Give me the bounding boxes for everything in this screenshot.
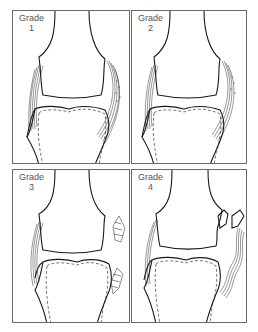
panel-grade-2: Grade 2 — [131, 10, 247, 164]
grade-text: Grade — [138, 13, 163, 23]
grade-label: Grade 1 — [19, 13, 44, 33]
panel-grade-3: Grade 3 — [12, 169, 130, 323]
knee-joint-illustration — [132, 170, 247, 323]
grade-label: Grade 2 — [138, 13, 163, 33]
knee-joint-illustration — [13, 170, 130, 323]
grade-number: 2 — [138, 23, 163, 33]
grade-number: 1 — [19, 23, 44, 33]
grade-number: 3 — [19, 182, 44, 192]
grade-text: Grade — [138, 172, 163, 182]
grade-label: Grade 4 — [138, 172, 163, 192]
grade-number: 4 — [138, 182, 163, 192]
grade-text: Grade — [19, 172, 44, 182]
panel-grade-4: Grade 4 — [131, 169, 247, 323]
knee-joint-illustration — [13, 11, 130, 164]
knee-joint-illustration — [132, 11, 247, 164]
panel-grade-1: Grade 1 — [12, 10, 130, 164]
grade-text: Grade — [19, 13, 44, 23]
grade-label: Grade 3 — [19, 172, 44, 192]
